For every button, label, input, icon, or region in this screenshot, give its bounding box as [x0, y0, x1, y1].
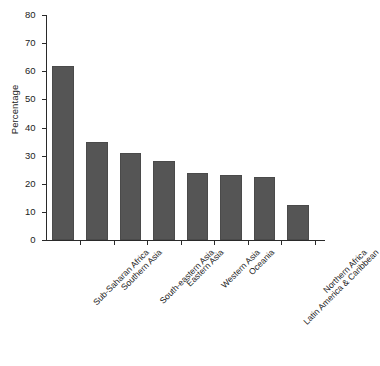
- x-axis-tick: [214, 241, 215, 245]
- bar: [287, 205, 309, 240]
- x-axis-label: Latin America & Caribbean: [302, 248, 380, 326]
- x-axis-tick: [147, 241, 148, 245]
- bar: [153, 161, 175, 240]
- bar: [254, 177, 276, 240]
- y-axis-tick-label: 30: [14, 151, 36, 161]
- y-axis-tick-label: 50: [14, 94, 36, 104]
- y-axis-tick-label: 10: [14, 207, 36, 217]
- x-axis-line: [46, 240, 326, 241]
- x-axis-tick: [80, 241, 81, 245]
- bar: [52, 66, 74, 240]
- y-axis-line: [46, 15, 47, 240]
- figure-caption-fragment: [8, 359, 328, 366]
- x-axis-tick: [281, 241, 282, 245]
- bar: [187, 173, 209, 241]
- y-axis-tick-label: 20: [14, 179, 36, 189]
- x-axis-tick: [181, 241, 182, 245]
- x-axis-tick: [248, 241, 249, 245]
- y-axis-tick-label: 40: [14, 123, 36, 133]
- bar: [220, 175, 242, 240]
- y-axis-title: Percentage: [9, 65, 20, 155]
- x-axis-label: Sub-Saharan Africa: [92, 248, 151, 307]
- y-axis-tick-label: 0: [14, 235, 36, 245]
- y-axis-tick-label: 80: [14, 10, 36, 20]
- bar: [86, 142, 108, 240]
- x-axis-tick: [315, 241, 316, 245]
- bar: [120, 153, 142, 240]
- x-axis-tick: [114, 241, 115, 245]
- y-axis-tick-label: 60: [14, 66, 36, 76]
- y-axis-tick-label: 70: [14, 38, 36, 48]
